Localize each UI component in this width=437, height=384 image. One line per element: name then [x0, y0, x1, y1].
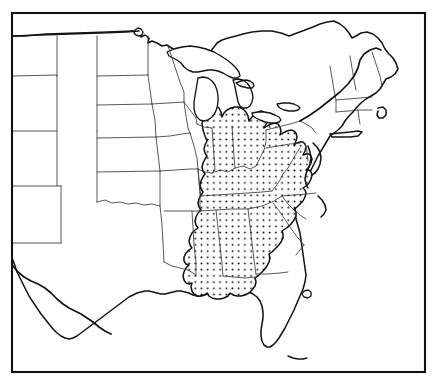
- lake-okeechobee: [302, 290, 311, 298]
- distribution-map-figure: [0, 0, 437, 384]
- map-canvas: [0, 0, 437, 384]
- lake-michigan: [194, 77, 218, 121]
